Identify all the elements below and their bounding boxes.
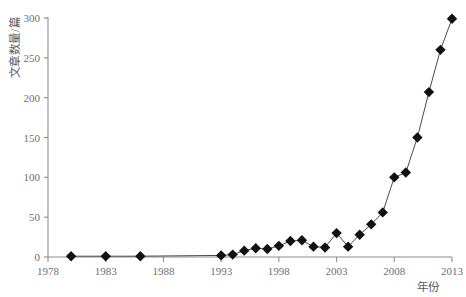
data-point-marker (320, 242, 330, 252)
series-line-articles (71, 19, 452, 256)
y-axis-title: 文章数量/篇 (8, 17, 21, 78)
y-tick-label: 150 (24, 132, 41, 144)
data-point-marker (239, 245, 249, 255)
y-tick-label: 100 (24, 171, 41, 183)
x-tick-label: 1983 (95, 265, 118, 277)
x-axis-title: 年份 (417, 280, 441, 293)
y-tick-label: 250 (24, 52, 41, 64)
data-point-marker (135, 251, 145, 261)
data-point-marker (101, 251, 111, 261)
x-tick-label: 1998 (268, 265, 291, 277)
data-point-marker (262, 244, 272, 254)
data-point-marker (285, 236, 295, 246)
data-point-marker (216, 250, 226, 260)
data-point-marker (401, 167, 411, 177)
data-point-marker (66, 251, 76, 261)
x-tick-label: 2008 (383, 265, 406, 277)
data-point-marker (412, 132, 422, 142)
data-point-marker (274, 241, 284, 251)
y-tick-label: 0 (35, 251, 41, 263)
data-point-marker (447, 14, 457, 24)
x-tick-label: 1988 (152, 265, 175, 277)
y-tick-label: 50 (29, 211, 41, 223)
data-point-marker (251, 243, 261, 253)
data-point-marker (424, 87, 434, 97)
data-point-marker (389, 172, 399, 182)
y-tick-label: 300 (24, 12, 41, 24)
data-point-marker (308, 241, 318, 251)
x-tick-label: 2013 (441, 265, 464, 277)
x-tick-label: 1993 (210, 265, 233, 277)
data-point-marker (297, 235, 307, 245)
y-tick-label: 200 (24, 92, 41, 104)
data-point-marker (435, 45, 445, 55)
x-tick-label: 2003 (326, 265, 349, 277)
x-tick-label: 1978 (37, 265, 60, 277)
data-point-marker (227, 249, 237, 259)
chart-container: 0501001502002503001978198319881993199820… (0, 0, 466, 297)
line-chart-plot: 0501001502002503001978198319881993199820… (0, 0, 466, 297)
